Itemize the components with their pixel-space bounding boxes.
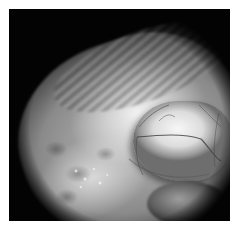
scope-vignette xyxy=(9,9,230,221)
image-frame xyxy=(9,9,230,221)
